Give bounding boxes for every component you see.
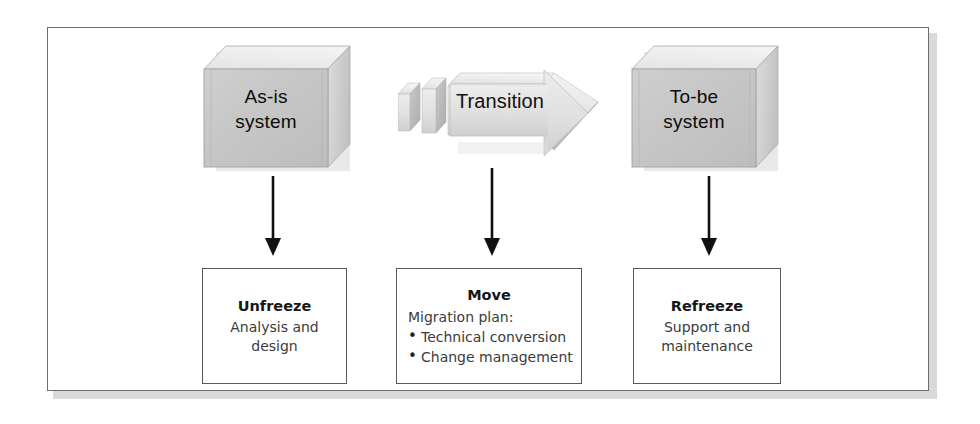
- stage-box-refreeze[interactable]: Refreeze Support and maintenance: [633, 268, 781, 384]
- transition-arrow[interactable]: Transition: [398, 62, 610, 160]
- down-arrow-icon: [481, 168, 503, 258]
- list-item: Technical conversion: [408, 327, 575, 347]
- as-is-label-line-2: system: [202, 109, 330, 134]
- stage-move-title: Move: [403, 285, 575, 305]
- diagram-canvas: As-is system: [0, 0, 980, 424]
- stage-move-line-1: Migration plan:: [403, 307, 575, 327]
- to-be-label-line-2: system: [630, 109, 758, 134]
- stage-unfreeze-line-2: design: [251, 337, 297, 356]
- arrow-transition-to-move: [481, 168, 503, 258]
- as-is-system-cube[interactable]: As-is system: [202, 38, 352, 183]
- transition-label: Transition: [456, 90, 544, 113]
- stage-refreeze-title: Refreeze: [671, 296, 743, 316]
- stage-box-unfreeze[interactable]: Unfreeze Analysis and design: [202, 268, 347, 384]
- transition-segment-1: [398, 83, 420, 131]
- as-is-system-label: As-is system: [202, 84, 330, 134]
- list-item: Change management: [408, 347, 575, 367]
- as-is-label-line-1: As-is: [202, 84, 330, 109]
- stage-unfreeze-line-1: Analysis and: [230, 318, 318, 337]
- stage-refreeze-content: Refreeze Support and maintenance: [634, 269, 780, 383]
- stage-unfreeze-title: Unfreeze: [238, 296, 312, 316]
- stage-move-bullet-list: Technical conversion Change management: [403, 327, 575, 367]
- down-arrow-icon: [698, 176, 720, 258]
- arrow-to-be-to-refreeze: [698, 176, 720, 258]
- stage-unfreeze-content: Unfreeze Analysis and design: [203, 269, 346, 383]
- stage-refreeze-line-1: Support and: [664, 318, 750, 337]
- to-be-label-line-1: To-be: [630, 84, 758, 109]
- stage-move-content: Move Migration plan: Technical conversio…: [397, 269, 581, 383]
- stage-refreeze-line-2: maintenance: [661, 337, 753, 356]
- stage-box-move[interactable]: Move Migration plan: Technical conversio…: [396, 268, 582, 384]
- transition-segment-2: [422, 78, 446, 133]
- down-arrow-icon: [262, 176, 284, 258]
- arrow-as-is-to-unfreeze: [262, 176, 284, 258]
- to-be-system-label: To-be system: [630, 84, 758, 134]
- to-be-system-cube[interactable]: To-be system: [630, 38, 780, 183]
